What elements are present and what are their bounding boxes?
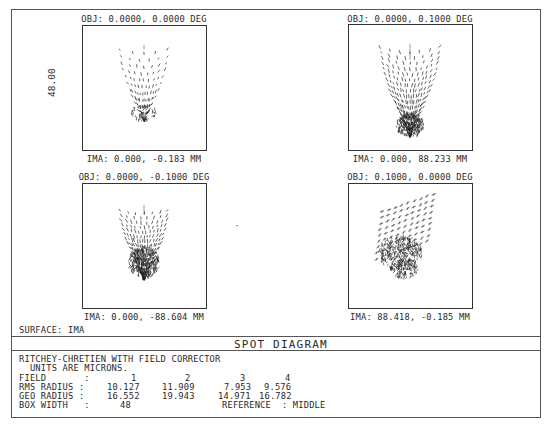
box-width-value: 48 <box>120 399 131 410</box>
plot3-obj-label: OBJ: 0.0000, -0.1000 DEG <box>79 171 210 182</box>
reference-label: REFERENCE : MIDDLE <box>222 399 325 410</box>
plot1-obj-label: OBJ: 0.0000, 0.0000 DEG <box>81 13 206 24</box>
spot-plot-field-3 <box>82 183 207 309</box>
surface-label: SURFACE: IMA <box>19 324 84 335</box>
plot2-obj-label: OBJ: 0.0000, 0.1000 DEG <box>347 13 472 24</box>
plot4-ima-label: IMA: 88.418, -0.185 MM <box>350 311 470 322</box>
plot2-ima-label: IMA: 0.000, 88.233 MM <box>353 153 467 164</box>
stray-mark <box>236 225 238 226</box>
spot-pattern-2 <box>349 25 472 150</box>
geo-value-2: 19.943 <box>162 390 195 401</box>
plot1-ima-label: IMA: 0.000, -0.183 MM <box>87 153 201 164</box>
spot-pattern-4 <box>349 184 472 308</box>
spot-plot-field-1 <box>82 25 207 151</box>
plot3-ima-label: IMA: 0.000, -88.604 MM <box>84 311 204 322</box>
box-scale-label: 48.00 <box>46 68 57 97</box>
divider-top <box>11 336 541 337</box>
box-width-label: BOX WIDTH : <box>19 399 90 410</box>
spot-pattern-1 <box>83 26 206 150</box>
spot-plot-field-4 <box>348 183 473 309</box>
spot-plot-field-2 <box>348 24 473 151</box>
spot-pattern-3 <box>83 184 206 308</box>
plot4-obj-label: OBJ: 0.1000, 0.0000 DEG <box>347 171 472 182</box>
divider-bottom <box>11 350 541 351</box>
